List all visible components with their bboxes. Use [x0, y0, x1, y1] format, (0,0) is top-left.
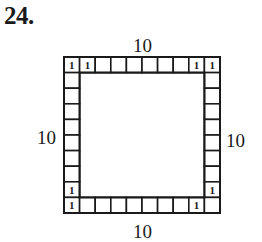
- inner-square-outline: [80, 73, 205, 198]
- cell-value-one: 1: [69, 184, 75, 196]
- grid-cell: [95, 197, 111, 213]
- grid-cell: [158, 57, 174, 73]
- grid-cell: [64, 88, 80, 104]
- grid-cell: [126, 57, 142, 73]
- grid-cell: [80, 197, 96, 213]
- grid-cell: [64, 151, 80, 167]
- grid-cell: [64, 119, 80, 135]
- grid-cell: [64, 166, 80, 182]
- grid-cell: [64, 104, 80, 120]
- grid-cell: [95, 57, 111, 73]
- grid-cell: [64, 135, 80, 151]
- grid-cell: [204, 119, 220, 135]
- grid-cell: [204, 73, 220, 89]
- grid-cell: [158, 197, 174, 213]
- cell-value-one: 1: [69, 199, 75, 211]
- cell-value-one: 1: [194, 199, 200, 211]
- grid-cell: [204, 197, 220, 213]
- grid-cell: [111, 57, 127, 73]
- cell-value-one: 1: [69, 59, 75, 71]
- square-border-grid: 11111111: [0, 0, 262, 242]
- outer-square-outline: [64, 57, 220, 213]
- grid-cell: [173, 197, 189, 213]
- grid-cell: [204, 166, 220, 182]
- cell-value-one: 1: [194, 59, 200, 71]
- grid-cell: [204, 104, 220, 120]
- grid-cell: [204, 151, 220, 167]
- cell-value-one: 1: [209, 184, 215, 196]
- grid-cell: [142, 57, 158, 73]
- grid-cell: [64, 73, 80, 89]
- grid-cell: [111, 197, 127, 213]
- grid-cell: [204, 88, 220, 104]
- grid-cell: [204, 135, 220, 151]
- cell-value-one: 1: [85, 59, 91, 71]
- grid-cell: [142, 197, 158, 213]
- grid-cell: [173, 57, 189, 73]
- cell-value-one: 1: [209, 59, 215, 71]
- grid-cell: [126, 197, 142, 213]
